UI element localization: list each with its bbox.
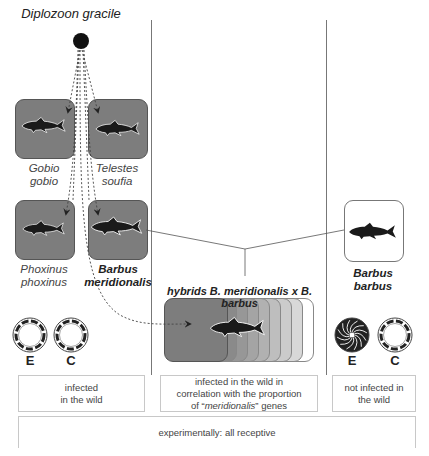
- fish-icon-gobio: [22, 117, 65, 132]
- status-bottom-text: experimentally: all receptive: [158, 427, 275, 439]
- status-middle-line2: correlation with the proportion: [176, 388, 301, 400]
- gill-icon-left-e: [13, 318, 47, 352]
- fish-icon-barbus-meridionalis: [91, 217, 141, 235]
- parasite-dot: [73, 33, 89, 49]
- cross-line-barbus: [245, 230, 344, 249]
- infection-arrow-hybrids: [80, 50, 190, 324]
- gill-icons: [13, 318, 412, 352]
- gill-label-left-c: C: [61, 353, 81, 368]
- cross-line-meridionalis: [146, 230, 245, 249]
- status-box-middle: infected in the wild in correlation with…: [160, 375, 318, 412]
- gill-icon-right-e: [335, 318, 369, 352]
- status-middle-line3: of “meridionalis” genes: [176, 400, 301, 412]
- status-left-line2: in the wild: [60, 394, 102, 406]
- fish-icon-telestes: [96, 120, 139, 135]
- status-middle-line1: infected in the wild in: [176, 376, 301, 388]
- fish-icon-barbus-barbus: [349, 223, 396, 240]
- status-box-left: infected in the wild: [18, 375, 145, 412]
- gill-label-right-e: E: [342, 353, 362, 368]
- fish-icon-hybrid: [210, 317, 264, 336]
- infection-arrow-barbus-meridionalis: [84, 50, 98, 214]
- status-right-line1: not infected in: [344, 382, 403, 394]
- status-left-line1: infected: [60, 382, 102, 394]
- status-box-bottom: experimentally: all receptive: [18, 416, 416, 448]
- fish-icon-phoxinus: [23, 221, 64, 236]
- status-box-right: not infected in the wild: [332, 375, 416, 412]
- status-right-line2: the wild: [344, 394, 403, 406]
- gill-icon-right-c: [378, 318, 412, 352]
- meridionalis-emphasis: meridionalis: [205, 400, 256, 411]
- gill-label-right-c: C: [385, 353, 405, 368]
- gill-label-left-e: E: [20, 353, 40, 368]
- gill-icon-left-c: [54, 318, 88, 352]
- infection-path-extra-2: [83, 50, 89, 200]
- infection-path-extra-1: [73, 50, 79, 200]
- infection-arrow-phoxinus: [66, 50, 78, 214]
